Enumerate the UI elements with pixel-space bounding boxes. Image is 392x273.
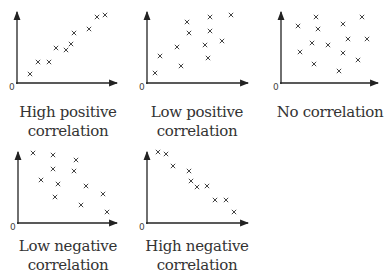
caption-high-positive: High positive correlation — [8, 103, 128, 141]
origin-label: 0 — [139, 82, 145, 92]
caption-line: No correlation — [270, 103, 390, 122]
cross-marker — [189, 179, 193, 183]
origin-label: 0 — [273, 82, 279, 92]
cross-marker — [69, 42, 73, 46]
cross-marker — [337, 69, 341, 73]
cross-marker — [203, 43, 207, 47]
cross-marker — [103, 13, 107, 17]
caption-line: High positive — [8, 103, 128, 122]
cross-marker — [39, 178, 43, 182]
scatter-plot-no-correlation: 0 — [273, 12, 378, 92]
caption-no-correlation: No correlation — [270, 103, 390, 122]
cross-marker — [195, 185, 199, 189]
cross-marker — [341, 22, 345, 26]
cross-marker — [64, 48, 68, 52]
cross-marker — [101, 192, 105, 196]
scatter-plot-high-negative-correlation: 0 — [139, 150, 248, 232]
cross-marker — [316, 27, 320, 31]
cross-marker — [56, 182, 60, 186]
cross-marker — [54, 46, 58, 50]
cross-marker — [206, 56, 210, 60]
cross-marker — [51, 167, 55, 171]
cross-marker — [51, 153, 55, 157]
cross-marker — [310, 41, 314, 45]
cross-marker — [95, 15, 99, 19]
cross-marker — [153, 71, 157, 75]
cross-marker — [31, 151, 35, 155]
caption-low-negative: Low negative correlation — [8, 237, 128, 273]
cross-marker — [356, 58, 360, 62]
scatter-plot-high-positive-correlation: 0 — [9, 12, 117, 92]
cross-marker — [185, 20, 189, 24]
cross-marker — [314, 15, 318, 19]
cross-marker — [79, 203, 83, 207]
cross-marker — [298, 50, 302, 54]
cross-marker — [164, 152, 168, 156]
caption-line: correlation — [8, 256, 128, 273]
cross-marker — [220, 39, 224, 43]
cross-marker — [360, 15, 364, 19]
cross-marker — [47, 60, 51, 64]
cross-marker — [53, 195, 57, 199]
cross-marker — [175, 45, 179, 49]
caption-line: correlation — [8, 122, 128, 141]
cross-marker — [87, 27, 91, 31]
caption-high-negative: High negative correlation — [137, 237, 257, 273]
cross-marker — [208, 15, 212, 19]
cross-marker — [205, 184, 209, 188]
caption-low-positive: Low positive correlation — [137, 103, 257, 141]
cross-marker — [229, 13, 233, 17]
caption-line: Low positive — [137, 103, 257, 122]
caption-line: High negative — [137, 237, 257, 256]
cross-marker — [213, 198, 217, 202]
cross-marker — [312, 62, 316, 66]
cross-marker — [156, 150, 160, 154]
caption-line: correlation — [137, 122, 257, 141]
cross-marker — [36, 60, 40, 64]
cross-marker — [326, 43, 330, 47]
cross-marker — [296, 24, 300, 28]
caption-line: correlation — [137, 256, 257, 273]
cross-marker — [187, 31, 191, 35]
cross-marker — [84, 184, 88, 188]
cross-marker — [158, 54, 162, 58]
origin-label: 0 — [9, 82, 15, 92]
cross-marker — [187, 169, 191, 173]
cross-marker — [365, 37, 369, 41]
cross-marker — [171, 164, 175, 168]
origin-label: 0 — [139, 222, 145, 232]
cross-marker — [74, 158, 78, 162]
cross-marker — [105, 210, 109, 214]
cross-marker — [341, 51, 345, 55]
cross-marker — [346, 37, 350, 41]
cross-marker — [72, 31, 76, 35]
cross-marker — [72, 169, 76, 173]
cross-marker — [179, 64, 183, 68]
cross-marker — [208, 29, 212, 33]
origin-label: 0 — [10, 222, 16, 232]
cross-marker — [224, 198, 228, 202]
scatter-plot-low-negative-correlation: 0 — [10, 151, 117, 232]
cross-marker — [232, 210, 236, 214]
cross-marker — [28, 72, 32, 76]
caption-line: Low negative — [8, 237, 128, 256]
scatter-plot-low-positive-correlation: 0 — [139, 12, 248, 92]
